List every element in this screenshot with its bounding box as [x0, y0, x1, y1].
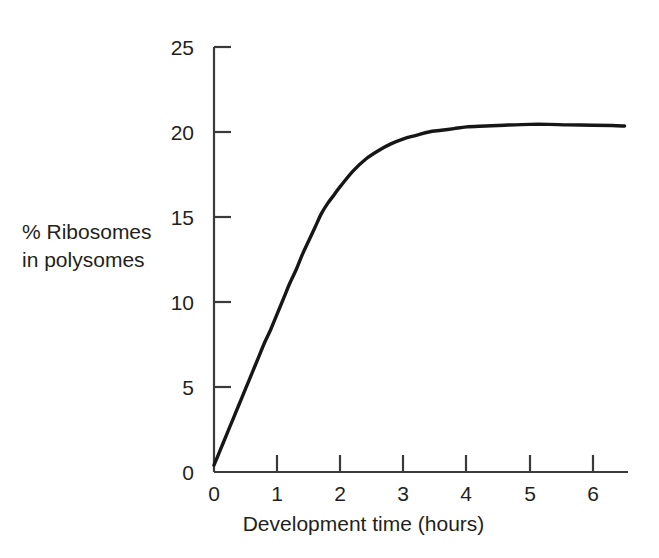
y-tick-label-20: 20: [158, 122, 194, 143]
y-tick-label-0: 0: [158, 462, 194, 483]
x-axis-title: Development time (hours): [0, 512, 659, 536]
x-tick-label-2: 2: [334, 483, 346, 504]
x-tick-label-4: 4: [460, 483, 472, 504]
x-axis-ticks: [277, 455, 593, 472]
x-tick-label-5: 5: [524, 483, 536, 504]
x-tick-label-3: 3: [397, 483, 409, 504]
chart-figure: 25 20 15 10 5 0 0 1 2 3 4 5 6 Developmen…: [0, 0, 659, 558]
line-chart-plot: [0, 0, 659, 558]
y-tick-label-5: 5: [158, 377, 194, 398]
data-series-line: [214, 124, 625, 465]
y-axis-title-line-1: % Ribosomes: [22, 218, 192, 246]
y-axis-ticks: [214, 47, 231, 387]
y-tick-label-25: 25: [158, 37, 194, 58]
x-tick-label-6: 6: [587, 483, 599, 504]
x-tick-label-1: 1: [271, 483, 283, 504]
x-axis-title-text: Development time (hours): [243, 512, 485, 536]
y-axis-title: % Ribosomes in polysomes: [22, 218, 192, 274]
y-tick-label-10: 10: [158, 292, 194, 313]
x-tick-label-0: 0: [208, 483, 220, 504]
y-axis-title-line-2: in polysomes: [22, 246, 192, 274]
